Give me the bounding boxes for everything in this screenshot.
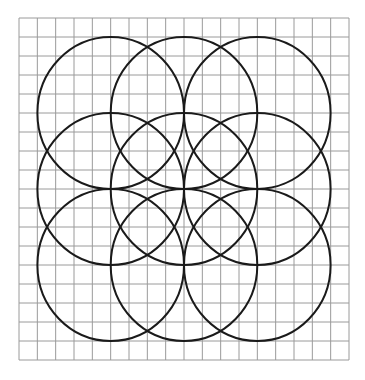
circle-grid-diagram — [0, 0, 365, 380]
